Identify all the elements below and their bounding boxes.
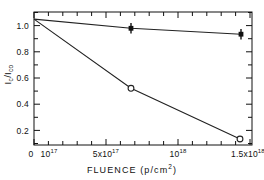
figure: 1.0 0.8 0.6 0.4 0.2 0 1017 5x1017 1018 1…	[0, 0, 264, 180]
y-tick-label: 0.2	[3, 126, 29, 136]
x-tick-label: 1018	[164, 148, 192, 159]
y-axis-title: Ic/Ico	[2, 52, 15, 96]
data-point-marker	[239, 32, 244, 37]
data-point-marker	[128, 85, 134, 91]
x-tick-label: 5x1017	[84, 148, 128, 159]
plot-frame	[34, 12, 252, 145]
data-point-marker	[129, 26, 134, 31]
x-tick-label: 1017	[36, 148, 62, 159]
x-axis-title: FLUENCE (p/cm2)	[0, 163, 264, 175]
y-tick-label: 1.0	[3, 21, 29, 31]
x-tick-label: 1.5x1018	[222, 148, 264, 159]
y-tick-label: 0.4	[3, 99, 29, 109]
data-point-marker	[237, 136, 243, 142]
